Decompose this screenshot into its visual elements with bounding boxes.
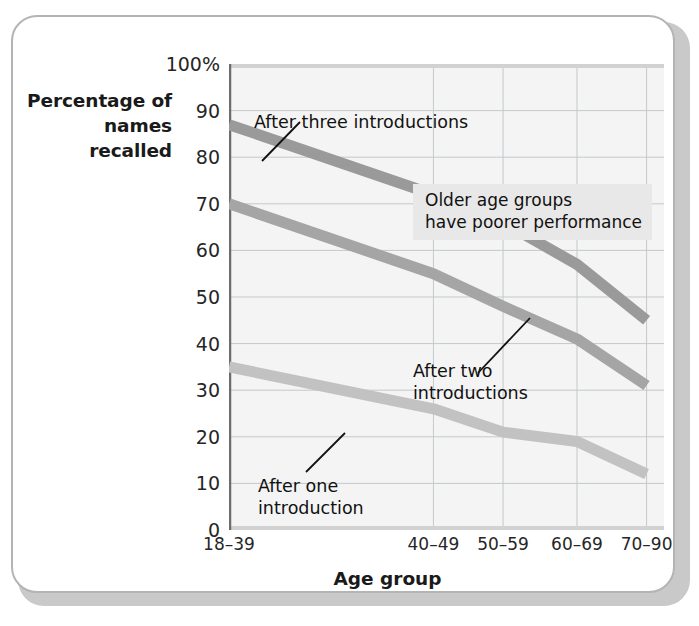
y-tick-label: 90 [160,100,220,122]
annotation-after-three-introductions: After three introductions [254,111,468,133]
x-tick-label: 40–49 [408,534,460,554]
y-tick-label: 10 [160,472,220,494]
x-tick-label: 50–59 [477,534,529,554]
x-tick-label: 60–69 [551,534,603,554]
y-tick-label: 50 [160,286,220,308]
x-axis-title-text: Age group [333,568,441,589]
x-axis-title: Age group [0,568,699,589]
plot-svg [229,64,664,530]
y-tick-label: 60 [160,239,220,261]
annotation-after-two-introductions: After two introductions [413,360,528,404]
plot-bottom-edge [229,526,664,530]
annotation-after-one-introduction: After one introduction [258,475,364,519]
figure-root: Percentage of names recalled 01020304050… [0,0,699,626]
callout-older-age-groups: Older age groups have poorer performance [413,184,652,240]
x-tick-label: 70–90 [621,534,673,554]
x-tick-label: 18–39 [203,534,255,554]
y-tick-label: 30 [160,379,220,401]
plot-top-edge [229,64,664,68]
x-axis-tick-labels: 18–3940–4950–5960–6970–90 [229,534,664,564]
plot-area [229,64,664,530]
y-tick-label: 100% [160,53,220,75]
y-tick-label: 40 [160,333,220,355]
y-tick-label: 70 [160,193,220,215]
y-tick-label: 80 [160,146,220,168]
y-axis-tick-labels: 0102030405060708090100% [160,64,222,530]
y-axis-title: Percentage of names recalled [22,88,172,163]
y-tick-label: 20 [160,426,220,448]
